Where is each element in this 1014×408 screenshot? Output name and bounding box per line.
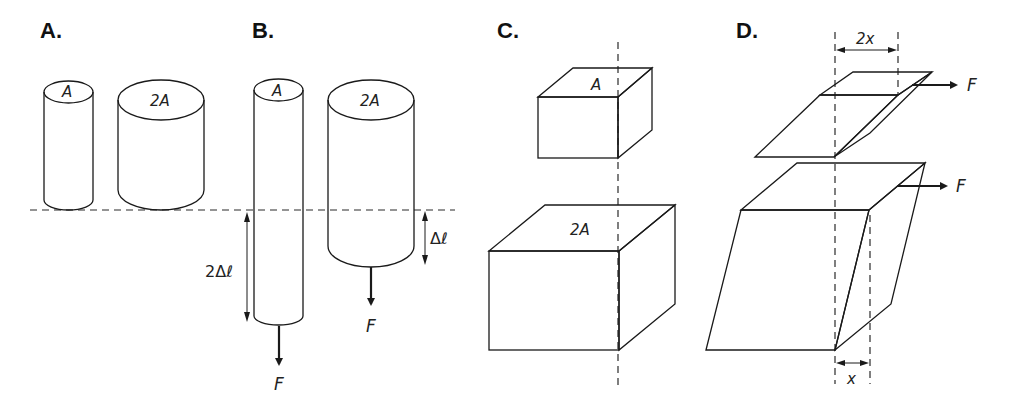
stress-strain-figure: A. B. C. D. A 2A A F 2Δℓ 2A F Δℓ (0, 0, 1014, 408)
panel-a-cylinder-small: A (44, 81, 93, 210)
area-label: A (61, 83, 72, 101)
panel-c-box-large: 2A (489, 205, 675, 350)
force-label: F (967, 75, 977, 95)
panel-label-c: C. (497, 18, 519, 43)
panel-d-shear-2x: 2x (836, 30, 897, 53)
panel-c-box-small: A (538, 68, 652, 158)
panel-a-cylinder-large: 2A (118, 80, 204, 210)
panel-b-elongation-1: Δℓ (422, 211, 448, 265)
panel-label-d: D. (736, 18, 758, 43)
displacement-label: x (846, 370, 856, 388)
displacement-label: 2x (856, 30, 875, 48)
panel-b-elongation-2: 2Δℓ (205, 212, 250, 322)
force-label: F (956, 176, 966, 196)
panel-b-cylinder-thin: A F (254, 79, 303, 394)
area-label: A (590, 76, 601, 94)
area-label: 2A (150, 92, 170, 110)
panel-label-b: B. (252, 18, 274, 43)
force-label: F (274, 374, 284, 394)
area-label: 2A (570, 221, 590, 239)
panel-d-shear-x: x (836, 360, 869, 388)
panel-b-cylinder-wide: 2A F (328, 80, 414, 336)
panel-d-slab-top: F (755, 72, 977, 157)
panel-d-block-bottom: F (706, 163, 966, 350)
area-label: A (271, 82, 282, 100)
force-label: F (366, 316, 376, 336)
area-label: 2A (360, 92, 380, 110)
panel-label-a: A. (40, 18, 62, 43)
elongation-label: 2Δℓ (205, 262, 233, 281)
elongation-label: Δℓ (430, 229, 448, 248)
